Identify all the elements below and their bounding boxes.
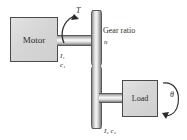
torque-label: T [76,6,80,15]
angle-arrow-icon [158,78,182,120]
angle-label: θ [170,90,174,99]
motor-label: Motor [23,35,46,45]
gear-ratio-symbol: n [104,38,108,46]
motor-shaft-damping-label: c₁ [60,61,66,69]
gear-ratio-label: Gear ratio [103,26,135,35]
load-shaft-inertia-damping-label: I₂ c₂ [104,127,116,135]
torque-arrow-icon [58,12,84,44]
gear-disc-upper [91,10,102,66]
load-block: Load [122,80,158,117]
load-shaft [99,93,123,103]
motor-shaft-inertia-label: I₁ [60,52,65,60]
load-label: Load [132,94,148,103]
motor-gear-load-diagram: Motor Load T θ Gear ratio n I₁ c₁ I₂ c₂ [0,0,187,140]
motor-block: Motor [10,17,58,62]
